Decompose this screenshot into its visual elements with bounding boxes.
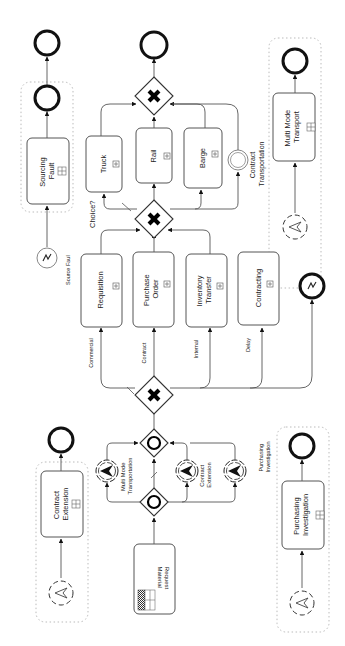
- barge-label: Barge: [198, 148, 207, 168]
- condition-contract: Contract: [141, 342, 147, 363]
- svg-text:Contract Extension: Contract Extension: [199, 462, 212, 487]
- condition-delay: Delay: [245, 338, 251, 352]
- purchasing-end-icon: [290, 434, 314, 458]
- subprocess-marker-icon: [164, 153, 170, 159]
- contract-extension-label-2: Extension: [61, 488, 70, 521]
- escalation-throw-contract-extension[interactable]: [176, 460, 198, 482]
- svg-text:Material Request: Material Request: [157, 566, 170, 589]
- inventory-transfer-label-1: Inventory: [195, 275, 204, 306]
- subprocess-marker-icon: [316, 511, 324, 519]
- end-event-icon: [35, 31, 59, 55]
- subprocess-marker-icon: [113, 283, 119, 289]
- subprocess-marker-icon: [212, 151, 218, 157]
- condition-commercial: Commercial: [88, 338, 94, 367]
- sourcing-fault-label-2: Fault: [47, 162, 56, 180]
- svg-text:Multi Mode Transport: Multi Mode Transport: [283, 108, 301, 147]
- svg-text:Contract Extension: Contract Extension: [52, 488, 70, 521]
- rail-label: Rail: [149, 149, 158, 162]
- subprocess-marker-icon: [217, 283, 223, 289]
- svg-text:Contract Transportation: Contract Transportation: [249, 141, 266, 186]
- svg-text:Inventory Transfer: Inventory Transfer: [195, 274, 213, 307]
- error-end-event[interactable]: [300, 274, 324, 298]
- purchase-order-label-2: Order: [151, 279, 160, 299]
- final-join-gateway[interactable]: [135, 77, 173, 115]
- inclusive-split-gateway[interactable]: [140, 488, 168, 516]
- purchase-order-label-1: Purchase: [142, 274, 151, 306]
- contracting-label: Contracting: [254, 269, 263, 307]
- choice-label: Choice?: [88, 200, 97, 228]
- data-table-icon: [138, 590, 155, 610]
- contract-extension-label-1: Contract: [52, 490, 61, 519]
- subprocess-marker-icon: [164, 281, 170, 287]
- purchasing-investigation-label-1: Purchasing: [292, 497, 301, 535]
- intermediate-event-contract-transportation[interactable]: [228, 150, 248, 170]
- contract-extension-end-icon: [49, 428, 73, 452]
- purchasing-trigger-label-2: Investigation: [265, 442, 271, 473]
- contract-extension-evt-label-2: Extension: [206, 462, 212, 487]
- multi-mode-transportation-label-1: Multi Mode: [120, 463, 126, 491]
- transport-choice-gateway[interactable]: [135, 200, 173, 238]
- multi-mode-transportation-label-2: Transportation: [127, 457, 133, 494]
- svg-text:Purchasing Investigation: Purchasing Investigation: [292, 494, 310, 536]
- bpmn-diagram: Sourcing Fault Source Faul Contract Exte…: [0, 0, 345, 646]
- process-end-event[interactable]: [141, 32, 167, 58]
- multi-mode-end-icon: [283, 49, 307, 73]
- sourcing-fault-label-1: Sourcing: [38, 157, 47, 187]
- sourcing-fault-end: [35, 86, 59, 110]
- material-request-label-1: Material: [157, 566, 163, 587]
- source-choice-gateway[interactable]: [135, 376, 173, 414]
- requisition-label: Requisition: [96, 271, 105, 308]
- subprocess-marker-icon: [58, 167, 66, 175]
- source-fault-trigger-label: Source Faul: [65, 255, 71, 285]
- escalation-start-event-multi-mode[interactable]: [283, 215, 307, 239]
- svg-text:Purchasing Investigation: Purchasing Investigation: [258, 442, 271, 473]
- inventory-transfer-label-2: Transfer: [204, 276, 213, 304]
- svg-text:Multi Mode Transportation: Multi Mode Transportation: [120, 457, 133, 494]
- purchasing-trigger-label-1: Purchasing: [258, 444, 264, 472]
- material-request-label-2: Request: [164, 567, 170, 590]
- multi-mode-transport-label-2: Transport: [292, 110, 301, 143]
- subprocess-marker-icon: [113, 161, 119, 167]
- subprocess-marker-icon: [267, 281, 273, 287]
- subprocess-marker-icon: [307, 123, 315, 131]
- inclusive-join-gateway[interactable]: [140, 429, 168, 457]
- escalation-throw-purchasing[interactable]: [224, 460, 246, 482]
- contract-transportation-label-2: Transportation: [258, 141, 266, 186]
- escalation-start-event-contract-extension[interactable]: [49, 581, 73, 605]
- condition-internal: Internal: [193, 340, 199, 358]
- subprocess-marker-icon: [72, 500, 80, 508]
- escalation-throw-multi-mode[interactable]: [96, 460, 118, 482]
- contract-transportation-label-1: Contract: [249, 152, 256, 179]
- truck-label: Truck: [99, 155, 108, 174]
- escalation-start-event-purchasing[interactable]: [290, 591, 314, 615]
- multi-mode-transport-label-1: Multi Mode: [283, 110, 292, 147]
- error-start-event[interactable]: [37, 248, 57, 268]
- purchasing-investigation-label-2: Investigation: [301, 494, 310, 536]
- contract-extension-evt-label-1: Contract: [199, 464, 205, 486]
